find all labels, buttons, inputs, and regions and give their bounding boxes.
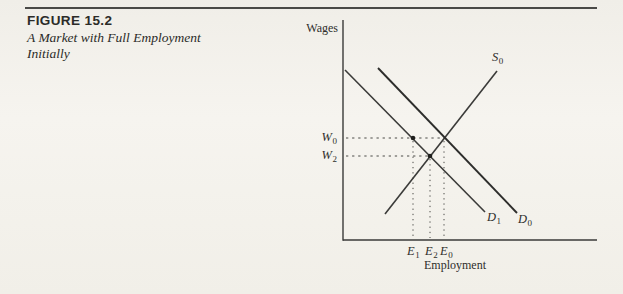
demand-initial-curve bbox=[378, 68, 517, 213]
demand-shifted-curve bbox=[345, 70, 485, 212]
employment-e0-label: E0 bbox=[440, 244, 453, 260]
employment-e1-label: E1 bbox=[407, 244, 420, 260]
y-axis-title: Wages bbox=[306, 21, 338, 36]
x-axis-title: Employment bbox=[424, 258, 486, 273]
point-marker-0 bbox=[411, 136, 416, 141]
supply-curve-label: S0 bbox=[492, 50, 503, 66]
employment-e2-label: E2 bbox=[425, 244, 438, 260]
demand-d0-curve-label: D0 bbox=[518, 212, 532, 228]
wage-w0-label: W0 bbox=[322, 130, 337, 146]
demand-d1-curve-label: D1 bbox=[487, 210, 501, 226]
wage-w2-label: W2 bbox=[322, 148, 337, 164]
point-marker-1 bbox=[428, 154, 433, 159]
diagram-svg bbox=[0, 0, 623, 294]
